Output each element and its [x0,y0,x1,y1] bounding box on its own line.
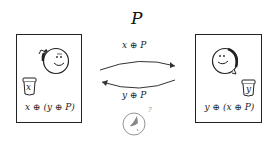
right-party-box: y y ⊕ (x ⊕ P) [195,34,262,123]
eavesdropper-question-mark: ? [148,106,152,114]
left-party-box: x x ⊕ (y ⊕ P) [16,34,82,123]
top-arrow-label: x ⊕ P [122,40,146,50]
left-jar-label: x [26,82,31,92]
left-expression: x ⊕ (y ⊕ P) [17,102,83,112]
bottom-arrow-label: y ⊕ P [122,90,146,100]
right-jar-label: y [246,84,251,94]
right-expression: y ⊕ (x ⊕ P) [196,102,263,112]
